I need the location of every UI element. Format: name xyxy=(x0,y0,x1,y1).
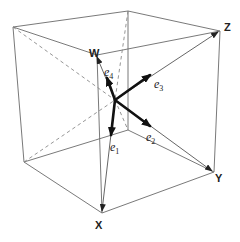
label-z: Z xyxy=(224,21,231,33)
edge-tbr-z xyxy=(128,11,220,31)
edge-x-y xyxy=(102,172,214,213)
edge-tbl-w xyxy=(13,27,97,55)
label-e3: e3 xyxy=(154,77,163,93)
label-x: X xyxy=(95,219,103,231)
basis-vector-e1 xyxy=(111,100,115,135)
label-e4: e4 xyxy=(104,65,113,81)
edge-tbl-bbl xyxy=(13,27,24,162)
label-e2: e2 xyxy=(146,130,155,146)
basis-vectors xyxy=(107,75,150,135)
edge-tbl-tbr xyxy=(13,11,128,27)
edge-w-x xyxy=(97,55,102,213)
label-y: Y xyxy=(215,172,223,184)
cube-edges xyxy=(13,11,220,213)
edge-bbr-y xyxy=(128,130,214,172)
label-e1: e1 xyxy=(110,140,119,156)
edge-z-y xyxy=(214,31,220,172)
center-rays xyxy=(97,32,218,211)
label-w: W xyxy=(89,47,100,59)
cube-diagram: W Z Y X e1 e2 e3 e4 xyxy=(0,0,240,242)
basis-vector-e3 xyxy=(115,75,150,100)
dashed-ray-tbr xyxy=(115,11,128,100)
dashed-ray-bbl xyxy=(24,100,115,162)
edge-bbl-x xyxy=(24,162,102,213)
